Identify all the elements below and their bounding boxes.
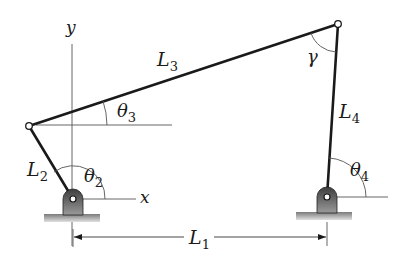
label-theta2: θ2	[84, 165, 103, 190]
label-L2: L2	[26, 158, 48, 184]
y-axis-label: y	[65, 17, 76, 37]
pivot-O4-pin	[324, 194, 330, 200]
label-theta3: θ3	[117, 100, 136, 125]
label-L1: L1	[188, 226, 210, 252]
joint-A	[26, 123, 33, 130]
link-L3	[29, 24, 338, 126]
four-bar-linkage-diagram: y x L1 L2 L3 L4 θ2 θ3 θ4 γ	[0, 0, 408, 266]
label-L4: L4	[338, 100, 360, 126]
label-L3: L3	[156, 48, 178, 74]
theta3-arc	[103, 101, 107, 125]
label-theta4: θ4	[350, 159, 369, 184]
link-L4	[327, 24, 338, 197]
x-axis-label: x	[140, 187, 150, 207]
label-gamma: γ	[307, 46, 318, 67]
pivot-O2-pin	[70, 196, 76, 202]
joint-B	[335, 21, 342, 28]
